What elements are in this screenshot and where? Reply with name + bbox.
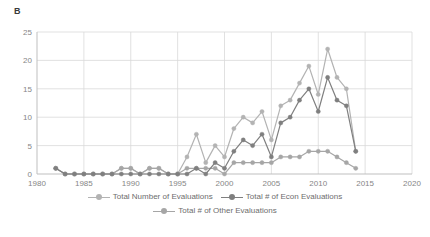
data-point (54, 166, 58, 170)
data-point (335, 98, 339, 102)
data-point (335, 75, 339, 79)
data-point (251, 161, 255, 165)
svg-text:25: 25 (23, 28, 32, 37)
y-axis-tick-labels: 0510152025 (23, 28, 32, 179)
data-point (307, 64, 311, 68)
data-point (82, 172, 86, 176)
data-point (241, 138, 245, 142)
data-point (316, 149, 320, 153)
data-point (307, 87, 311, 91)
data-point (260, 161, 264, 165)
series-total-number-of-evaluations (54, 47, 358, 176)
data-point (232, 161, 236, 165)
data-point (222, 155, 226, 159)
data-point (119, 172, 123, 176)
data-point (138, 172, 142, 176)
legend-label: Total # of Econ Evaluations (246, 190, 343, 204)
data-point (157, 172, 161, 176)
data-point (344, 161, 348, 165)
data-point (213, 166, 217, 170)
data-point (204, 172, 208, 176)
data-point (213, 144, 217, 148)
data-point (288, 98, 292, 102)
svg-text:2000: 2000 (216, 179, 234, 188)
data-point (232, 149, 236, 153)
data-point (354, 166, 358, 170)
x-axis-tick-labels: 198019851990199520002005201020152020 (28, 179, 421, 188)
svg-text:2010: 2010 (309, 179, 327, 188)
svg-text:1985: 1985 (75, 179, 93, 188)
svg-text:1995: 1995 (169, 179, 187, 188)
data-point (316, 109, 320, 113)
data-point (288, 115, 292, 119)
data-point (335, 155, 339, 159)
data-point (222, 166, 226, 170)
legend-marker-icon (153, 207, 175, 216)
data-point (194, 132, 198, 136)
svg-text:20: 20 (23, 56, 32, 65)
data-point (185, 172, 189, 176)
legend-item[interactable]: Total # of Other Evaluations (153, 204, 276, 218)
data-point (297, 155, 301, 159)
svg-text:10: 10 (23, 113, 32, 122)
legend-label: Total # of Other Evaluations (178, 204, 276, 218)
data-point (63, 172, 67, 176)
figure-panel-b: B 0510152025 198019851990199520002005201… (0, 0, 430, 237)
data-point (251, 121, 255, 125)
data-point (222, 172, 226, 176)
data-point (101, 172, 105, 176)
data-point (157, 166, 161, 170)
data-series-layer (54, 47, 358, 176)
data-point (269, 138, 273, 142)
data-point (297, 98, 301, 102)
data-point (147, 172, 151, 176)
data-point (316, 92, 320, 96)
svg-text:2020: 2020 (403, 179, 421, 188)
legend-marker-icon (88, 193, 110, 202)
svg-text:2005: 2005 (262, 179, 280, 188)
data-point (129, 166, 133, 170)
data-point (119, 166, 123, 170)
legend-item[interactable]: Total # of Econ Evaluations (221, 190, 343, 204)
data-point (110, 172, 114, 176)
data-point (279, 155, 283, 159)
data-point (204, 161, 208, 165)
svg-text:0: 0 (28, 170, 33, 179)
data-point (297, 81, 301, 85)
data-point (241, 115, 245, 119)
data-point (251, 144, 255, 148)
data-point (307, 149, 311, 153)
data-point (260, 132, 264, 136)
data-point (176, 172, 180, 176)
legend-row-1: Total Number of EvaluationsTotal # of Ec… (0, 190, 430, 204)
data-point (279, 104, 283, 108)
data-point (269, 155, 273, 159)
data-point (147, 166, 151, 170)
data-point (241, 161, 245, 165)
data-point (129, 172, 133, 176)
data-point (269, 161, 273, 165)
data-point (326, 149, 330, 153)
data-point (354, 149, 358, 153)
data-point (326, 75, 330, 79)
chart-legend: Total Number of EvaluationsTotal # of Ec… (0, 190, 430, 218)
data-point (194, 166, 198, 170)
data-point (166, 172, 170, 176)
legend-row-2: Total # of Other Evaluations (0, 204, 430, 218)
data-point (232, 126, 236, 130)
data-point (185, 166, 189, 170)
data-point (213, 161, 217, 165)
svg-text:1980: 1980 (28, 179, 46, 188)
svg-text:5: 5 (28, 142, 33, 151)
legend-item[interactable]: Total Number of Evaluations (88, 190, 213, 204)
data-point (185, 155, 189, 159)
data-point (279, 121, 283, 125)
svg-text:15: 15 (23, 85, 32, 94)
data-point (260, 109, 264, 113)
data-point (344, 87, 348, 91)
legend-marker-icon (221, 193, 243, 202)
svg-text:1990: 1990 (122, 179, 140, 188)
data-point (91, 172, 95, 176)
data-point (288, 155, 292, 159)
svg-text:2015: 2015 (356, 179, 374, 188)
